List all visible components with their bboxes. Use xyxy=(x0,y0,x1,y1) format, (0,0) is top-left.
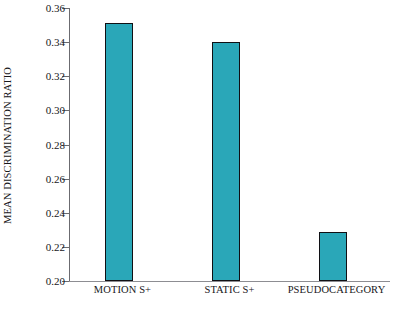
x-axis-tick-label: STATIC S+ xyxy=(204,285,254,296)
x-axis-line xyxy=(69,281,390,282)
y-axis-tick-label: 0.26 xyxy=(46,173,65,184)
y-axis-title-text: MEAN DISCRIMINATION RATIO xyxy=(3,66,14,223)
y-axis-tick-label: 0.32 xyxy=(46,71,65,82)
bar xyxy=(212,42,240,281)
y-axis-title: MEAN DISCRIMINATION RATIO xyxy=(0,0,16,290)
x-axis-tick-label: PSEUDOCATEGORY xyxy=(288,285,386,296)
y-axis-line xyxy=(69,8,70,281)
x-axis-tick-label: MOTION S+ xyxy=(94,285,151,296)
y-axis-tick-label: 0.28 xyxy=(46,139,65,150)
y-axis-tick-label: 0.22 xyxy=(46,241,65,252)
y-axis-tick-label: 0.24 xyxy=(46,207,65,218)
y-axis-tick-label: 0.36 xyxy=(46,3,65,14)
bar xyxy=(319,232,347,281)
bar xyxy=(105,23,133,281)
y-axis-tick-label: 0.20 xyxy=(46,276,65,287)
plot-area: 0.200.220.240.260.280.300.320.340.36 xyxy=(69,8,390,281)
y-axis-tick-label: 0.30 xyxy=(46,105,65,116)
bar-chart-figure: MEAN DISCRIMINATION RATIO 0.200.220.240.… xyxy=(0,0,399,320)
y-axis-tick-label: 0.34 xyxy=(46,37,65,48)
